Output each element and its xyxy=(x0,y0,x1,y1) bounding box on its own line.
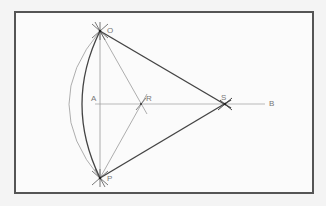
construction-diagram xyxy=(0,0,326,206)
line-or xyxy=(100,31,147,114)
line-pr xyxy=(100,94,147,178)
point-p xyxy=(99,177,102,180)
label-a: A xyxy=(91,95,96,103)
label-o: O xyxy=(107,27,113,35)
point-r xyxy=(140,103,142,105)
line-os xyxy=(100,31,231,108)
label-p: P xyxy=(107,175,112,183)
point-o xyxy=(99,30,102,33)
point-s xyxy=(224,103,227,106)
label-b: B xyxy=(269,100,274,108)
line-ps xyxy=(100,100,231,178)
label-r: R xyxy=(146,95,152,103)
outer-arc xyxy=(69,31,100,178)
label-s: S xyxy=(221,94,226,102)
